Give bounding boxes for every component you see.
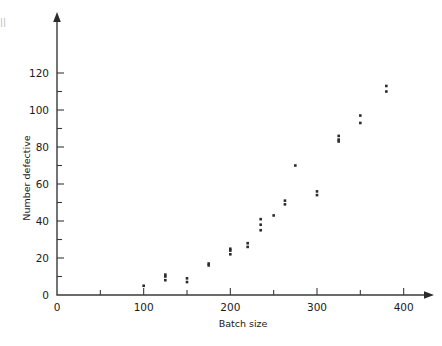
data-point (294, 164, 297, 167)
x-axis-tick-labels: 0100200300400 (54, 301, 414, 313)
axes (53, 12, 434, 299)
data-point (142, 284, 145, 287)
x-axis-tick-label: 400 (394, 301, 414, 313)
y-axis-ticks (57, 73, 64, 277)
y-axis-tick-label: 60 (36, 178, 49, 190)
data-point (246, 242, 249, 245)
y-axis-tick-label: 40 (36, 215, 49, 227)
x-axis-title: Batch size (219, 318, 268, 329)
data-point (385, 85, 388, 88)
y-axis-tick-label: 0 (42, 289, 49, 301)
scatter-plot-figure: ||| 0100200300400 020406080100120 Batch … (0, 0, 442, 346)
x-axis-tick-label: 300 (307, 301, 327, 313)
data-point (259, 229, 262, 232)
data-point (186, 281, 189, 284)
data-point (359, 122, 362, 125)
x-axis-ticks (100, 288, 403, 295)
y-axis-tick-label: 100 (29, 104, 49, 116)
data-point (259, 223, 262, 226)
data-point (164, 273, 167, 276)
data-point (316, 194, 319, 197)
data-point (359, 114, 362, 117)
axis-spines (57, 18, 428, 295)
y-axis-title: Number defective (21, 135, 32, 220)
y-axis-tick-label: 20 (36, 252, 49, 264)
y-axis-arrowhead (53, 12, 61, 22)
data-point (385, 90, 388, 93)
x-axis-tick-label: 200 (220, 301, 240, 313)
data-point (316, 190, 319, 193)
data-point (229, 247, 232, 250)
x-axis-arrowhead (424, 291, 434, 299)
left-edge-text-fragment: ||| (0, 18, 9, 96)
data-point (284, 199, 287, 202)
data-point (207, 262, 210, 265)
data-points (142, 85, 387, 287)
y-axis-tick-label: 120 (29, 67, 49, 79)
data-point (164, 279, 167, 282)
data-point (272, 214, 275, 217)
data-point (337, 138, 340, 141)
data-point (186, 277, 189, 280)
left-edge-text-fragment-label: ||| (0, 18, 6, 27)
x-axis-tick-label: 0 (54, 301, 61, 313)
data-point (229, 253, 232, 256)
data-point (337, 135, 340, 138)
y-axis-tick-label: 80 (36, 141, 49, 153)
data-point (246, 246, 249, 249)
data-point (259, 218, 262, 221)
plot-canvas: 0100200300400 020406080100120 Batch size… (0, 0, 442, 346)
data-point (284, 203, 287, 206)
x-axis-tick-label: 100 (134, 301, 154, 313)
